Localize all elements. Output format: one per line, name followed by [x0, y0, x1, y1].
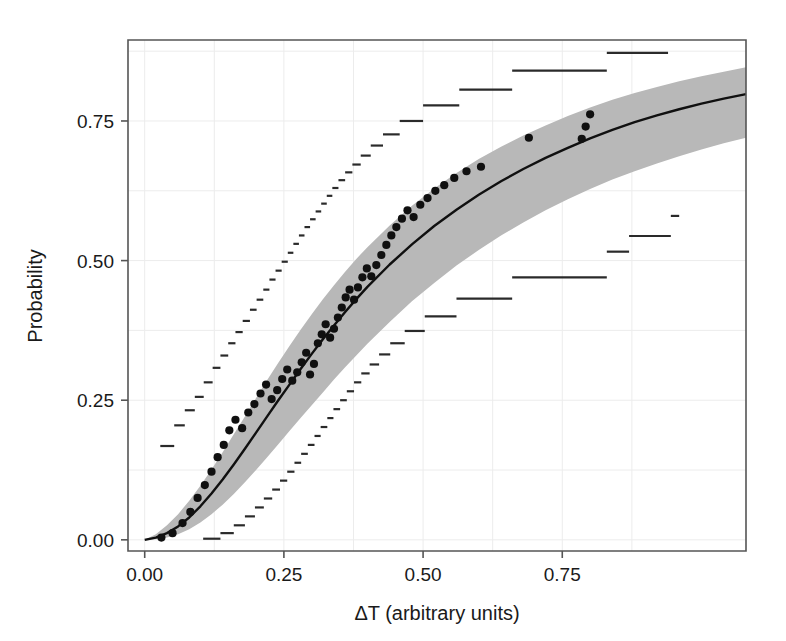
data-point [225, 426, 233, 434]
data-point [288, 377, 296, 385]
data-point [306, 370, 314, 378]
data-point [326, 334, 334, 342]
data-point [250, 400, 258, 408]
data-point [354, 283, 362, 291]
data-point [231, 416, 239, 424]
data-point [157, 533, 165, 541]
data-point [314, 339, 322, 347]
y-tick-label: 0.50 [77, 251, 114, 272]
x-tick-label: 0.75 [544, 564, 581, 585]
figure-container: 0.000.250.500.750.000.250.500.75 ΔT (arb… [0, 0, 786, 641]
data-point [214, 453, 222, 461]
data-point [262, 380, 270, 388]
data-point [345, 286, 353, 294]
data-point [525, 134, 533, 142]
data-point [298, 358, 306, 366]
data-point [278, 375, 286, 383]
data-point [220, 441, 228, 449]
y-tick-label: 0.75 [77, 111, 114, 132]
data-point [367, 272, 375, 280]
data-point [238, 424, 246, 432]
data-point [431, 187, 439, 195]
data-point [377, 251, 385, 259]
x-tick-label: 0.00 [126, 564, 163, 585]
data-point [477, 163, 485, 171]
data-point [186, 508, 194, 516]
data-point [387, 231, 395, 239]
data-point [372, 261, 380, 269]
y-tick-label: 0.25 [77, 390, 114, 411]
data-point [334, 313, 342, 321]
data-point [450, 174, 458, 182]
data-point [330, 325, 338, 333]
data-point [342, 293, 350, 301]
data-point [416, 201, 424, 209]
data-point [578, 135, 586, 143]
x-tick-label: 0.25 [265, 564, 302, 585]
data-point [318, 330, 326, 338]
data-point [440, 181, 448, 189]
data-point [283, 365, 291, 373]
data-point [273, 386, 281, 394]
data-point [256, 389, 264, 397]
data-point [382, 241, 390, 249]
y-axis-title: Probability [24, 249, 46, 342]
data-point [582, 122, 590, 130]
data-point [302, 349, 310, 357]
data-point [168, 529, 176, 537]
data-point [586, 110, 594, 118]
data-point [338, 303, 346, 311]
data-point [178, 519, 186, 527]
data-point [403, 206, 411, 214]
data-point [392, 223, 400, 231]
data-point [462, 167, 470, 175]
data-point [207, 468, 215, 476]
data-point [358, 273, 366, 281]
data-point [350, 296, 358, 304]
data-point [268, 395, 276, 403]
x-axis-title: ΔT (arbitrary units) [354, 602, 519, 624]
data-point [363, 264, 371, 272]
data-point [244, 408, 252, 416]
data-point [322, 320, 330, 328]
data-point [201, 481, 209, 489]
data-point [423, 194, 431, 202]
data-point [398, 215, 406, 223]
data-point [410, 213, 418, 221]
data-point [293, 368, 301, 376]
probability-chart: 0.000.250.500.750.000.250.500.75 ΔT (arb… [0, 0, 786, 641]
y-tick-label: 0.00 [77, 530, 114, 551]
data-point [310, 360, 318, 368]
x-tick-label: 0.50 [405, 564, 442, 585]
data-point [193, 494, 201, 502]
